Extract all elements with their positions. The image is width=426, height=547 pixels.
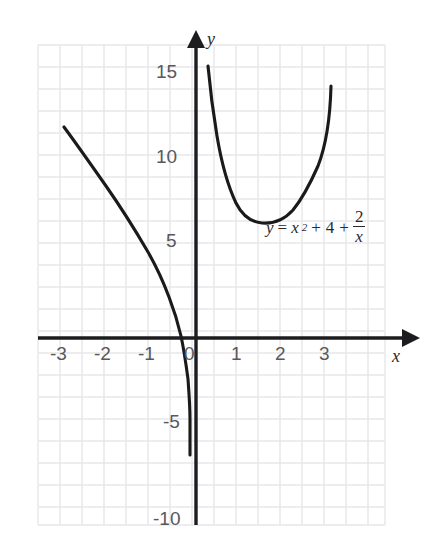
x-tick-label--1: -1 <box>138 344 155 363</box>
graph-figure: -3 -2 -1 0 1 2 3 15 10 5 -5 -10 y x y = … <box>0 0 426 547</box>
x-tick-label-2: 2 <box>275 344 286 363</box>
x-tick-label--2: -2 <box>94 344 111 363</box>
x-tick-label-3: 3 <box>319 344 330 363</box>
y-tick-label--10: -10 <box>153 509 180 528</box>
equation-term1-base: x <box>291 219 299 237</box>
y-tick-label-5: 5 <box>166 231 177 250</box>
y-tick-label-15: 15 <box>156 62 177 81</box>
y-tick-label-10: 10 <box>156 147 177 166</box>
curve-left-branch <box>64 127 190 455</box>
graph-canvas <box>0 0 426 547</box>
y-axis-name: y <box>207 30 215 48</box>
equation-fraction-denominator: x <box>353 227 365 245</box>
equation-equals-sign: = <box>277 219 289 237</box>
equation-plus-sign-2: + <box>338 219 350 237</box>
equation-term1-exponent: 2 <box>302 222 308 234</box>
equation-plus-sign-1: + <box>310 219 322 237</box>
equation-annotation: y = x2 + 4 + 2 x <box>266 209 365 246</box>
x-tick-label--3: -3 <box>50 344 67 363</box>
y-tick-label--5: -5 <box>163 412 180 431</box>
grid-lines <box>38 45 385 525</box>
x-tick-label-0: 0 <box>184 344 195 363</box>
equation-lhs: y <box>266 219 274 237</box>
x-axis-name: x <box>392 347 400 365</box>
x-tick-label-1: 1 <box>231 344 242 363</box>
equation-fraction-numerator: 2 <box>353 208 366 226</box>
equation-fraction: 2 x <box>353 208 366 245</box>
equation-term2: 4 <box>325 219 336 237</box>
